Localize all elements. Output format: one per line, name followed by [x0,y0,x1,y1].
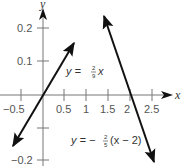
x-tick-label: 2.5 [144,103,159,115]
x-tick-label: 2 [124,103,130,115]
y-tick-label: −0.2 [11,154,33,166]
y-tick-label: 0.1 [17,55,32,67]
eq1-numerator: 2 [92,65,96,71]
eq2-suffix: (x − 2) [110,134,141,146]
eq1-suffix: x [97,65,104,77]
svg-text:y = −: y = − [70,134,96,146]
eq2-prefix: y = − [70,134,96,146]
equation-label-1: y = 2 9 x [65,65,104,79]
x-tick-label: −0.5 [3,103,25,115]
x-axis: x −0.5 0.5 1 1.5 2 2.5 [0,88,181,115]
eq2-numerator: 2 [104,134,108,140]
x-tick-label: 0.5 [56,103,71,115]
graph: y 0.2 0.1 −0.2 x −0.5 0.5 1 1.5 2 2.5 y … [0,0,182,166]
eq1-prefix: y = [65,65,82,77]
equation-label-2: y = − 2 5 (x − 2) [70,134,141,148]
x-tick-label: 1 [83,103,89,115]
x-axis-label: x [174,88,181,102]
svg-text:y =: y = [65,65,82,77]
y-axis-label: y [39,0,46,11]
eq2-denominator: 5 [104,142,108,148]
eq1-denominator: 9 [92,73,96,79]
y-tick-label: 0.2 [17,22,32,34]
x-tick-label: 1.5 [100,103,115,115]
